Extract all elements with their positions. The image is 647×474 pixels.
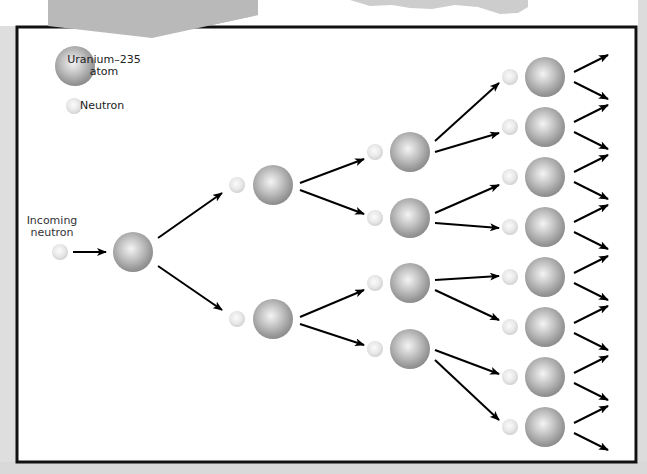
legend-uranium-label: Uranium–235 atom bbox=[64, 54, 144, 78]
target-atom-icon bbox=[113, 232, 153, 272]
incoming-neutron-label: Incoming neutron bbox=[20, 215, 84, 239]
incoming-line2: neutron bbox=[20, 227, 84, 239]
incoming-neutron-icon bbox=[52, 244, 68, 260]
legend-neutron-label: Neutron bbox=[80, 100, 124, 112]
legend-uranium-line2: atom bbox=[64, 66, 144, 78]
